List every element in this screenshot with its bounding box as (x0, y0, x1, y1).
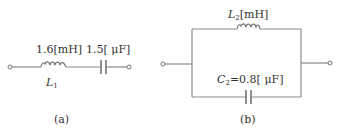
caption-a-text: (a) (54, 113, 69, 126)
terminal-a-left-icon (8, 65, 12, 69)
capacitor-c1-value-label: 1.5[ μF] (86, 44, 130, 55)
terminal-b-right-icon (328, 61, 332, 65)
inductor-l2-icon (237, 24, 260, 29)
caption-b: (b) (240, 114, 256, 125)
caption-a: (a) (54, 114, 69, 125)
capacitor-c2-label: C2=0.8[ μF] (217, 74, 283, 87)
inductor-l1-value-text: 1.6[mH] (36, 43, 82, 56)
terminal-a-right-icon (127, 65, 131, 69)
terminal-b-left-icon (161, 62, 165, 66)
caption-b-text: (b) (240, 113, 256, 126)
capacitor-c1-value-text: 1.5[ μF] (86, 43, 130, 56)
inductor-l1-subscript: 1 (53, 82, 57, 90)
inductor-l1-name-label: L1 (46, 77, 58, 90)
circuit-diagram: 1.6[mH] 1.5[ μF] L1 (a) L2[mH] C2=0.8[ μ… (0, 0, 340, 135)
circuit-b (161, 24, 332, 104)
inductor-l2-label: L2[mH] (228, 9, 268, 22)
capacitor-c2-value: =0.8[ μF] (230, 73, 284, 86)
circuit-a (8, 60, 131, 74)
circuit-drawing (0, 0, 340, 135)
inductor-l1-value-label: 1.6[mH] (36, 44, 82, 55)
inductor-l2-unit: [mH] (240, 8, 269, 21)
inductor-l1-icon (41, 62, 66, 67)
